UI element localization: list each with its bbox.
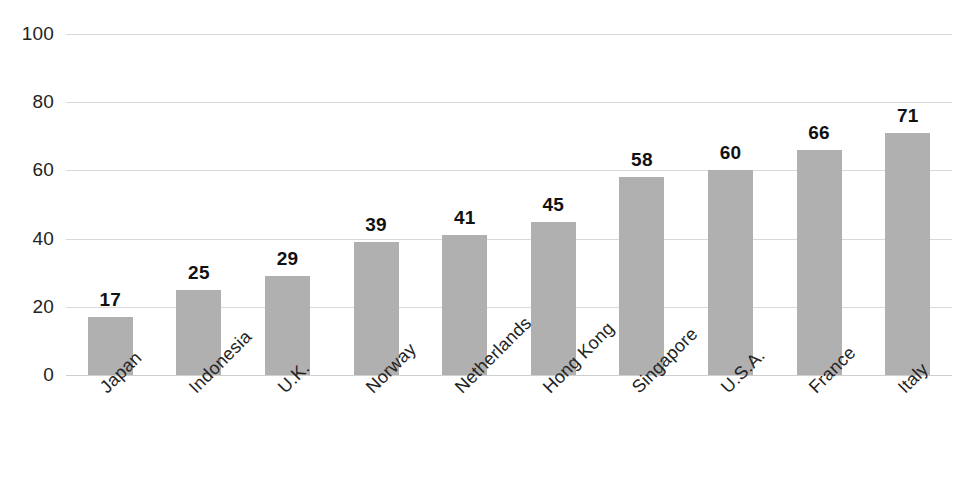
bar-value-label: 29 [277,248,299,270]
y-tick-label: 100 [22,23,54,45]
bar-group: 17 [88,34,133,375]
bar-value-label: 17 [100,289,122,311]
bar[interactable] [885,133,930,375]
y-tick-label: 40 [32,228,54,250]
bar-value-label: 58 [631,149,653,171]
y-axis: 100 80 60 40 20 0 [0,34,54,375]
bar-value-label: 45 [543,194,565,216]
bar-group: 39 [354,34,399,375]
bar[interactable] [265,276,310,375]
bar-group: 41 [442,34,487,375]
bar-chart: 100 80 60 40 20 0 17252939414558606671 J… [0,0,975,495]
y-tick-label: 80 [32,91,54,113]
x-axis: JapanIndonesiaU.K.NorwayNetherlandsHong … [66,375,952,495]
y-tick-label: 20 [32,296,54,318]
bar-value-label: 41 [454,207,476,229]
bar-value-label: 39 [365,214,387,236]
bar-group: 29 [265,34,310,375]
bar-value-label: 25 [188,262,210,284]
y-tick-label: 60 [32,159,54,181]
y-tick-label: 0 [43,364,54,386]
bar-value-label: 60 [720,142,742,164]
bar-value-label: 71 [897,105,919,127]
bar-group: 66 [797,34,842,375]
bar[interactable] [708,170,753,375]
bar-group: 60 [708,34,753,375]
bar-group: 25 [176,34,221,375]
bar[interactable] [797,150,842,375]
bar-group: 71 [885,34,930,375]
bar-group: 58 [619,34,664,375]
bar[interactable] [619,177,664,375]
bar-value-label: 66 [808,122,830,144]
bar-group: 45 [531,34,576,375]
